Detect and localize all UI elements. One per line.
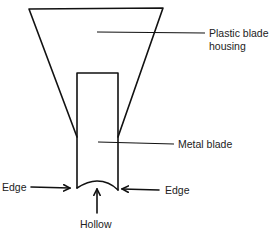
hollow-label: Hollow — [80, 218, 112, 230]
housing-leader-line — [97, 32, 205, 33]
metal-blade-shape — [77, 73, 118, 190]
edge-left-arrow-icon — [31, 187, 70, 188]
blade-leader-line — [98, 142, 174, 144]
blade-label: Metal blade — [178, 138, 232, 150]
edge-right-arrow-icon — [122, 189, 159, 190]
blade-diagram: Plastic blade housing Metal blade Edge E… — [0, 0, 269, 232]
housing-label-line2: housing — [209, 40, 246, 52]
edge-right-label: Edge — [165, 184, 190, 196]
edge-left-label: Edge — [2, 181, 27, 193]
housing-label-line1: Plastic blade — [209, 27, 269, 39]
